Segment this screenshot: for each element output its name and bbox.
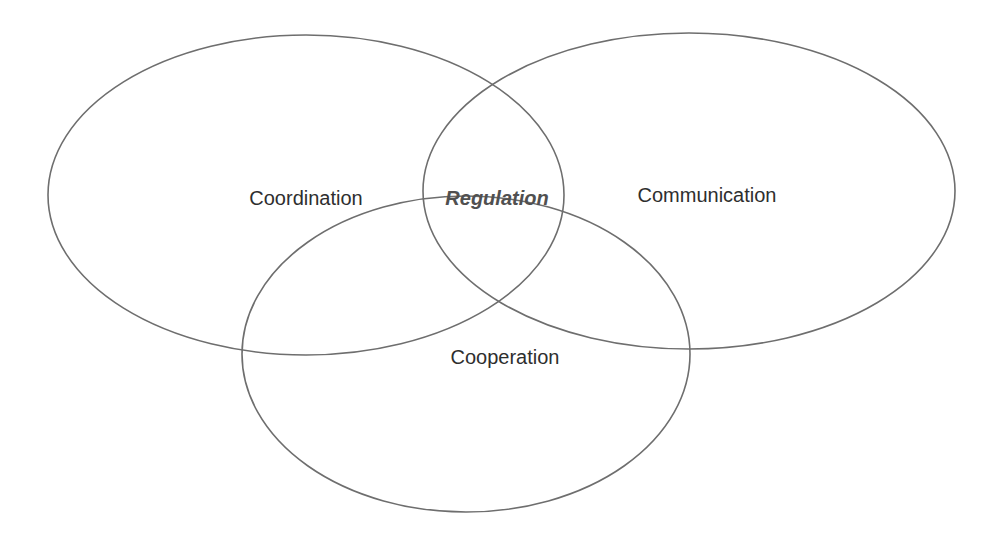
- venn-diagram: [0, 0, 994, 533]
- regulation-label: Regulation: [445, 186, 548, 210]
- cooperation-label: Cooperation: [451, 345, 560, 369]
- communication-label: Communication: [638, 183, 777, 207]
- coordination-label: Coordination: [249, 186, 362, 210]
